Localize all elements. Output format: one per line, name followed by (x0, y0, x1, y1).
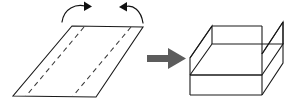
transform-arrow (147, 48, 186, 69)
transform-arrow-shaft (147, 55, 170, 62)
fold-up-arrow-right (119, 2, 143, 23)
fold-up-arrow-left-arc (62, 6, 85, 22)
fold-up-arrow-right-head (119, 2, 127, 12)
fold-up-arrow-left-head (84, 2, 92, 12)
folding-diagram-figure (0, 0, 298, 107)
channel-front-face (190, 75, 262, 95)
fold-up-arrow-right-arc (126, 6, 143, 23)
diagram-canvas (0, 0, 298, 107)
folded-channel-group (190, 22, 283, 95)
flat-sheet-group (13, 2, 143, 98)
fold-up-arrow-left (62, 2, 92, 23)
transform-arrow-head (168, 48, 186, 69)
